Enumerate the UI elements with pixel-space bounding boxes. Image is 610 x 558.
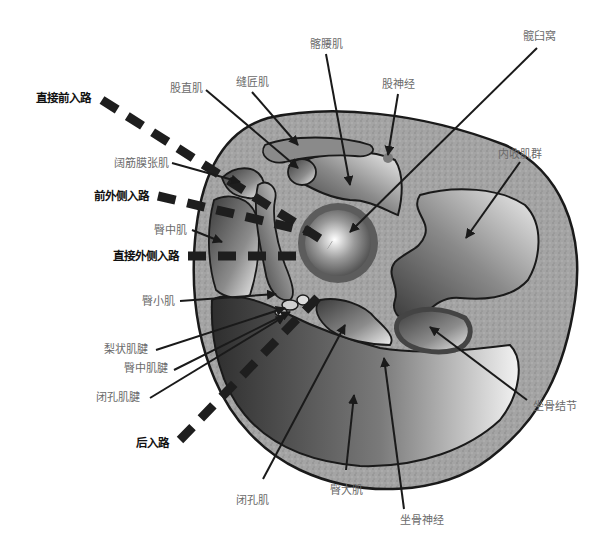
label-iliopsoas: 髂腰肌: [310, 38, 343, 51]
label-piriformis-tendon: 梨状肌腱: [104, 343, 148, 356]
label-rectus-femoris: 股直肌: [170, 82, 203, 95]
label-acetabulum: 髋臼窝: [523, 30, 556, 43]
label-direct-anterior-approach: 直接前入路: [36, 91, 91, 105]
label-gluteus-maximus: 臀大肌: [330, 484, 363, 497]
label-adductors: 内收肌群: [498, 148, 542, 161]
label-gluteus-medius: 臀中肌: [154, 224, 187, 237]
label-gluteus-minimus: 臀小肌: [142, 295, 175, 308]
hip-cross-section-diagram: [0, 0, 610, 558]
label-obturator: 闭孔肌: [236, 494, 269, 507]
label-gluteus-medius-tendon: 臀中肌腱: [124, 362, 168, 375]
label-ischial-tuberosity: 坐骨结节: [533, 400, 577, 413]
label-femoral-nerve: 股神经: [382, 78, 415, 91]
label-direct-lateral-approach: 直接外侧入路: [113, 249, 179, 263]
label-sartorius: 缝匠肌: [236, 76, 269, 89]
label-tensor-fasciae-latae: 阔筋膜张肌: [114, 157, 169, 170]
label-anterolateral-approach: 前外侧入路: [94, 189, 149, 203]
label-posterior-approach: 后入路: [136, 436, 169, 450]
label-sciatic-nerve: 坐骨神经: [400, 514, 444, 527]
label-obturator-tendon: 闭孔肌腱: [96, 391, 140, 404]
